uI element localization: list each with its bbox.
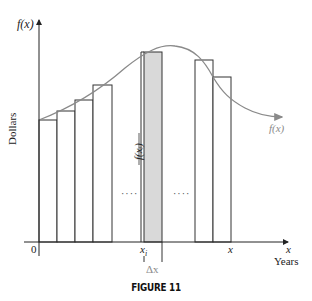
xi-label: xi: [140, 244, 147, 258]
rect-r1: [195, 60, 213, 242]
xi-label-subscript: i: [145, 249, 147, 258]
origin-label: 0: [31, 244, 37, 255]
ellipsis-left: ····: [121, 188, 138, 199]
y-axis-title: Dollars: [6, 113, 18, 145]
left-rectangles: [39, 85, 112, 242]
rect-2: [57, 111, 75, 242]
figure-caption: FIGURE 11: [31, 281, 281, 294]
rect-4: [93, 85, 112, 242]
riemann-sum-diagram: [0, 0, 312, 301]
delta-x-label: Δx: [146, 264, 159, 275]
curve-label: f(x): [269, 123, 284, 134]
x-axis-label: x: [286, 244, 291, 255]
shaded-rectangle-i: [141, 52, 162, 242]
rect-3: [75, 100, 93, 242]
y-axis-label: f(x): [17, 18, 34, 30]
ellipsis-right: ····: [173, 188, 190, 199]
rect-r2: [213, 77, 231, 242]
bar-height-label: f(xᵢ): [132, 143, 144, 160]
x-axis-title: Years: [274, 256, 299, 267]
x-tick-label: x: [228, 244, 233, 255]
rect-1: [39, 120, 57, 242]
right-rectangles: [195, 60, 231, 242]
